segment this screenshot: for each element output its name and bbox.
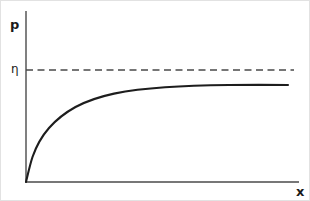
x-axis-label: x bbox=[296, 185, 304, 198]
plot-canvas bbox=[1, 1, 310, 201]
y-axis-label: p bbox=[10, 18, 19, 31]
figure-container: p η x bbox=[0, 0, 310, 201]
eta-tick-label: η bbox=[11, 63, 19, 75]
growth-curve bbox=[26, 85, 288, 182]
